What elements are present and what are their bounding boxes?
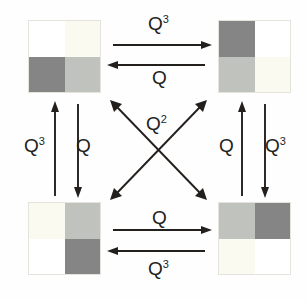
label-right-down-exponent: 3 (280, 135, 286, 147)
label-top-forward-base: Q (148, 13, 163, 34)
state-square-top-right[interactable] (218, 20, 291, 93)
state-cell-top-left (219, 21, 255, 57)
state-cell-bottom-right (65, 57, 101, 93)
label-bottom-reverse-exponent: 3 (163, 258, 169, 270)
state-cell-bottom-left (29, 57, 65, 93)
label-top-reverse: Q (152, 68, 167, 87)
state-cell-top-right (255, 203, 291, 239)
label-right-down: Q3 (265, 136, 286, 155)
label-top-reverse-base: Q (152, 67, 167, 88)
label-bottom-forward: Q (152, 208, 167, 227)
state-square-bottom-right[interactable] (218, 202, 291, 275)
label-right-down-base: Q (265, 135, 280, 156)
state-cell-top-right (65, 21, 101, 57)
state-cell-bottom-left (219, 239, 255, 275)
state-cell-top-right (255, 21, 291, 57)
state-cell-top-left (29, 203, 65, 239)
arrow-right-up (238, 101, 246, 196)
arrow-bottom-reverse (107, 247, 205, 255)
label-diagonals-exponent: 2 (161, 113, 167, 125)
label-left-up-base: Q (24, 135, 39, 156)
label-left-up: Q3 (24, 136, 45, 155)
label-bottom-reverse-base: Q (148, 258, 163, 279)
state-cell-bottom-right (255, 239, 291, 275)
label-left-down: Q (76, 136, 91, 155)
label-diagonals: Q2 (146, 114, 167, 133)
label-bottom-reverse: Q3 (148, 259, 169, 278)
label-diagonals-base: Q (146, 113, 161, 134)
label-right-up: Q (219, 136, 234, 155)
transition-diagram: Q3 Q Q Q3 Q3 Q Q Q3 Q2 (0, 0, 307, 301)
state-cell-top-right (65, 203, 101, 239)
label-left-up-exponent: 3 (39, 135, 45, 147)
state-cell-bottom-left (29, 239, 65, 275)
label-bottom-forward-base: Q (152, 207, 167, 228)
state-square-bottom-left[interactable] (28, 202, 101, 275)
state-square-top-left[interactable] (28, 20, 101, 93)
label-top-forward: Q3 (148, 14, 169, 33)
state-cell-top-left (219, 203, 255, 239)
state-cell-bottom-right (255, 57, 291, 93)
state-cell-top-left (29, 21, 65, 57)
label-left-down-base: Q (76, 135, 91, 156)
arrow-left-up (51, 101, 59, 196)
label-top-forward-exponent: 3 (163, 13, 169, 25)
arrow-top-forward (113, 41, 212, 49)
state-cell-bottom-right (65, 239, 101, 275)
label-right-up-base: Q (219, 135, 234, 156)
state-cell-bottom-left (219, 57, 255, 93)
